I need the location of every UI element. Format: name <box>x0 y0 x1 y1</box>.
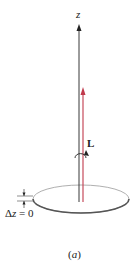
rotation-arrowhead-icon <box>84 150 89 156</box>
angular-momentum-arrowhead-icon <box>81 87 86 95</box>
delta-value: = 0 <box>16 207 33 219</box>
caption-close-paren: ) <box>77 248 81 260</box>
diagram-canvas <box>0 0 138 266</box>
delta-z-arrow-down-icon <box>23 193 26 197</box>
angular-momentum-label: L <box>87 138 94 149</box>
figure-caption: (a) <box>68 249 81 260</box>
delta-z-arrow-up-icon <box>23 201 26 205</box>
z-axis-label: z <box>76 9 80 20</box>
z-axis-arrowhead-icon <box>77 24 82 31</box>
delta-z-label: Δz = 0 <box>5 208 34 219</box>
